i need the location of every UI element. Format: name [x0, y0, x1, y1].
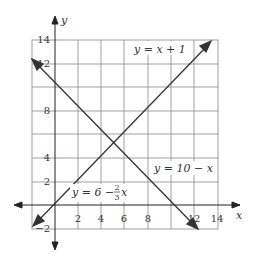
eq1-label: y = x + 1 [133, 43, 186, 56]
svg-text:2: 2 [75, 213, 81, 224]
line-y-eq-10-minus-x [32, 59, 198, 229]
svg-text:6: 6 [121, 213, 127, 224]
svg-text:2: 2 [114, 183, 119, 192]
svg-text:14: 14 [37, 34, 50, 45]
x-axis-arrow-left-icon [14, 202, 22, 208]
svg-text:8: 8 [44, 105, 50, 116]
y-axis-arrow-down-icon [52, 242, 58, 250]
svg-text:4: 4 [98, 213, 104, 224]
svg-text:12: 12 [37, 58, 50, 69]
y-axis-label: y [60, 14, 68, 27]
svg-text:2: 2 [44, 176, 50, 187]
svg-text:4: 4 [44, 152, 50, 163]
eq3-label: y = 6 − 2 3 x [70, 183, 128, 202]
x-axis-arrow-right-icon [232, 202, 240, 208]
coordinate-plane: 2 4 6 8 12 14 14 12 8 4 2 −2 x y y = x +… [0, 0, 254, 257]
svg-text:x: x [121, 186, 128, 199]
eq2-label: y = 10 − x [153, 162, 214, 175]
svg-text:y = 6 −: y = 6 − [71, 186, 114, 199]
svg-text:8: 8 [145, 213, 151, 224]
svg-text:−2: −2 [35, 223, 50, 234]
x-axis-label: x [236, 209, 243, 222]
x-tick-labels: 2 4 6 8 12 14 [75, 213, 224, 224]
svg-text:14: 14 [211, 213, 224, 224]
svg-text:12: 12 [188, 213, 201, 224]
svg-text:3: 3 [114, 193, 119, 202]
y-axis-arrow-up-icon [52, 16, 58, 24]
